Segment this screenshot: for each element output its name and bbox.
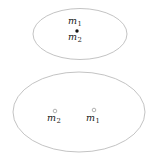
bottom-mass-label-m1-symbol: m bbox=[86, 112, 95, 123]
top-mass-label-m1: m1 bbox=[68, 16, 82, 28]
top-mass-label-m2: m2 bbox=[68, 32, 82, 44]
top-mass-label-m1-subscript: 1 bbox=[77, 20, 82, 28]
top-mass-label-m2-symbol: m bbox=[68, 31, 77, 42]
bottom-mass-label-m2-symbol: m bbox=[47, 112, 56, 123]
top-mass-label-m2-subscript: 2 bbox=[77, 36, 82, 44]
physics-mass-diagram: m1 m2 m2 m1 bbox=[0, 0, 156, 164]
bottom-mass-label-m2: m2 bbox=[47, 113, 61, 125]
bottom-ellipse-boundary bbox=[13, 72, 145, 152]
top-mass-label-m1-symbol: m bbox=[68, 15, 77, 26]
bottom-mass-label-m1: m1 bbox=[86, 113, 100, 125]
bottom-mass-label-m2-subscript: 2 bbox=[56, 117, 61, 125]
bottom-mass-label-m1-subscript: 1 bbox=[95, 117, 100, 125]
